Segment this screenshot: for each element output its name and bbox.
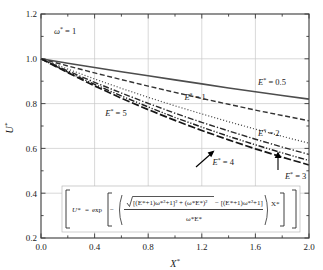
equation-equals: = <box>85 206 89 214</box>
x-tick-label: 2.0 <box>303 242 315 252</box>
omega-annotation: ω* = 1 <box>54 26 76 36</box>
curve-label-e3: E* = 3 <box>284 171 306 181</box>
y-tick-labels: 0.20.40.60.81.01.2 <box>26 9 38 243</box>
y-tick-label: 0.2 <box>26 233 37 243</box>
x-tick-label: 0.0 <box>35 242 47 252</box>
x-tick-labels: 0.00.40.81.21.62.0 <box>35 242 315 252</box>
x-tick-label: 0.8 <box>143 242 155 252</box>
curve-label-e4: E* = 4 <box>212 157 235 167</box>
x-tick-label: 1.2 <box>196 242 207 252</box>
equation-exp: exp <box>92 206 103 214</box>
equation-minus: − <box>110 206 114 214</box>
y-tick-label: 0.8 <box>26 99 38 109</box>
equation-trailing-variable: X* <box>271 200 280 208</box>
equation-denominator: ω*E* <box>186 215 202 223</box>
x-axis-title: X* <box>169 257 180 269</box>
x-tick-label: 0.4 <box>89 242 101 252</box>
curve-label-e5: E* = 5 <box>104 108 126 118</box>
y-tick-label: 0.6 <box>26 144 38 154</box>
equation-box: U* = exp − [(E*+1)ω*²+1]² + (ω*E*)² − [(… <box>62 186 300 232</box>
curve-label-e0.5: E* = 0.5 <box>257 77 286 87</box>
curve-label-e2: E* = 2 <box>257 128 279 138</box>
equation-lhs: U* <box>72 206 81 214</box>
line-chart: 0.00.40.81.21.62.0 0.20.40.60.81.01.2 E*… <box>0 0 323 270</box>
y-tick-label: 0.4 <box>26 189 38 199</box>
y-tick-label: 1.0 <box>26 54 38 64</box>
equation-numerator-radicand: [(E*+1)ω*²+1]² + (ω*E*)² <box>133 199 207 207</box>
curve-label-e1: E* = 1 <box>183 92 205 102</box>
chart-figure: 0.00.40.81.21.62.0 0.20.40.60.81.01.2 E*… <box>0 0 323 270</box>
x-tick-label: 1.6 <box>250 242 262 252</box>
y-axis-title: U* <box>3 122 15 133</box>
equation-numerator-tail: − [(E*+1)ω*²+1] <box>215 199 263 207</box>
y-tick-label: 1.2 <box>26 9 37 19</box>
